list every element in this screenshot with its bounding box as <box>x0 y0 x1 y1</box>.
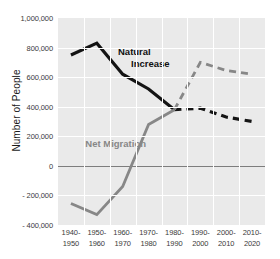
series-line-net-migration-actual <box>71 110 175 215</box>
y-axis-tick-label: 0 <box>49 161 53 170</box>
net-migration-label-line1: Net <box>85 138 100 149</box>
y-axis-tick-label: 1,000,000 <box>21 14 53 23</box>
y-axis-tick-label: - 400,000 <box>22 221 53 230</box>
plot-area: Natural Increase Net Migration <box>58 18 265 225</box>
y-axis-tick-label: 400,000 <box>27 102 53 111</box>
gridline-vertical <box>162 18 163 225</box>
y-axis-tick-label: 800,000 <box>27 43 53 52</box>
series-label-net-migration: Net Migration <box>60 138 146 150</box>
x-axis-tick-labels: 1940-19501950-19601960-19701970-19801980… <box>58 228 265 258</box>
gridline-vertical <box>84 18 85 225</box>
y-axis-tick-label: - 200,000 <box>22 191 53 200</box>
y-axis-tick-labels: 1,000,000800,000600,000400,000200,0000- … <box>0 0 55 259</box>
gridline-vertical <box>239 18 240 225</box>
gridline-vertical <box>213 18 214 225</box>
x-axis-tick-label: 2010-2020 <box>232 228 272 249</box>
y-axis-tick-label: 200,000 <box>27 132 53 141</box>
chart-page: Number of People 1,000,000800,000600,000… <box>0 0 280 259</box>
y-axis-tick-label: 600,000 <box>27 73 53 82</box>
gridline-vertical <box>110 18 111 225</box>
gridline-vertical <box>187 18 188 225</box>
gridline-vertical <box>136 18 137 225</box>
